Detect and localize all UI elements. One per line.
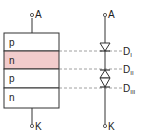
layer-label: n [9,55,15,66]
pnpn-structure: A p n p n K [4,9,59,132]
layer-label: p [9,37,15,48]
diode-d1-icon [100,43,110,51]
cathode-label: K [108,121,115,132]
anode-terminal [30,13,33,16]
diode-equivalent: A DI DII DIII K [100,9,136,132]
junction-lines [59,51,122,88]
diode-label-d1: DI [123,46,132,58]
anode-terminal [103,13,106,16]
thyristor-diagram: A p n p n K A DI DII DIII K [0,0,141,138]
diode-label-d2: DII [123,64,134,76]
diode-d3-icon [100,78,110,87]
diode-d2-icon [100,70,110,78]
anode-label: A [108,9,115,20]
anode-label: A [35,9,42,20]
diode-label-d3: DIII [123,83,136,95]
layer-label: p [9,73,15,84]
cathode-terminal [30,124,33,127]
cathode-terminal [103,124,106,127]
layer-label: n [9,92,15,103]
cathode-label: K [35,121,42,132]
